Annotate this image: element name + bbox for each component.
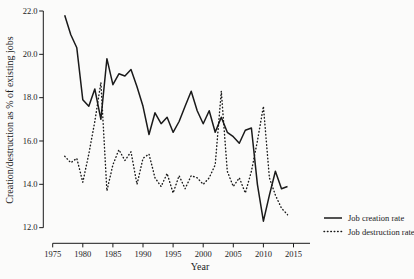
y-tick-label: 12.0	[23, 222, 38, 232]
x-tick-label: 2010	[255, 249, 272, 259]
y-tick-label: 14.0	[23, 179, 38, 189]
x-tick-label: 1990	[135, 249, 152, 259]
data-series	[65, 15, 288, 221]
x-tick-label: 1980	[74, 249, 91, 259]
legend-label-job-creation: Job creation rate	[348, 213, 404, 223]
x-tick-label: 1995	[165, 249, 182, 259]
y-tick-label: 18.0	[23, 92, 38, 102]
x-tick-label: 2015	[285, 249, 302, 259]
y-tick-label: 22.0	[23, 6, 38, 16]
y-axis-ticks: 12.014.016.018.020.022.0	[23, 6, 44, 233]
x-tick-label: 2005	[225, 249, 242, 259]
chart: 12.014.016.018.020.022.0 197519801985199…	[0, 0, 414, 279]
legend-label-job-destruction: Job destruction rate	[348, 227, 414, 237]
y-tick-label: 20.0	[23, 49, 38, 59]
y-axis-title: Creation/destruction as % of existing jo…	[4, 36, 15, 204]
x-tick-label: 1975	[44, 249, 61, 259]
job-creation-destruction-figure: 12.014.016.018.020.022.0 197519801985199…	[0, 0, 414, 279]
y-tick-label: 16.0	[23, 136, 38, 146]
x-axis-ticks: 197519801985199019952000200520102015	[44, 243, 302, 258]
legend: Job creation rate Job destruction rate	[324, 213, 414, 237]
x-tick-label: 1985	[104, 249, 121, 259]
x-axis-title: Year	[191, 261, 210, 272]
job-creation-rate-line	[65, 15, 288, 221]
x-tick-label: 2000	[195, 249, 212, 259]
